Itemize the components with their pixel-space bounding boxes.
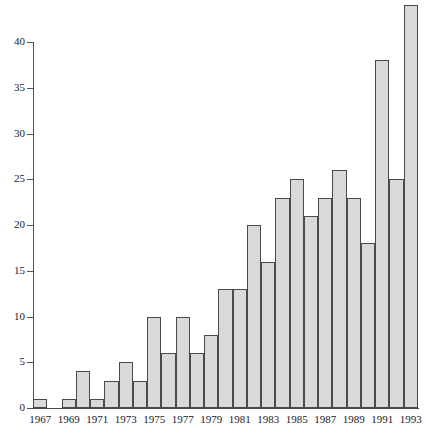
bar xyxy=(218,289,232,408)
bar xyxy=(332,170,346,408)
bar xyxy=(361,243,375,408)
bar xyxy=(233,289,247,408)
bar xyxy=(261,262,275,408)
bar xyxy=(375,60,389,408)
bar xyxy=(76,371,90,408)
bar xyxy=(33,399,47,408)
bar xyxy=(275,198,289,408)
bar xyxy=(318,198,332,408)
bar xyxy=(133,381,147,408)
bar xyxy=(90,399,104,408)
bar xyxy=(104,381,118,408)
bar xyxy=(304,216,318,408)
bar xyxy=(247,225,261,408)
bar xyxy=(347,198,361,408)
bar xyxy=(290,179,304,408)
bar xyxy=(119,362,133,408)
x-tick-label: 1993 xyxy=(394,412,426,426)
bar xyxy=(389,179,403,408)
bar xyxy=(190,353,204,408)
bar xyxy=(176,317,190,409)
bar xyxy=(404,5,418,408)
bar xyxy=(62,399,76,408)
bar xyxy=(161,353,175,408)
bar xyxy=(204,335,218,408)
bar xyxy=(147,317,161,409)
